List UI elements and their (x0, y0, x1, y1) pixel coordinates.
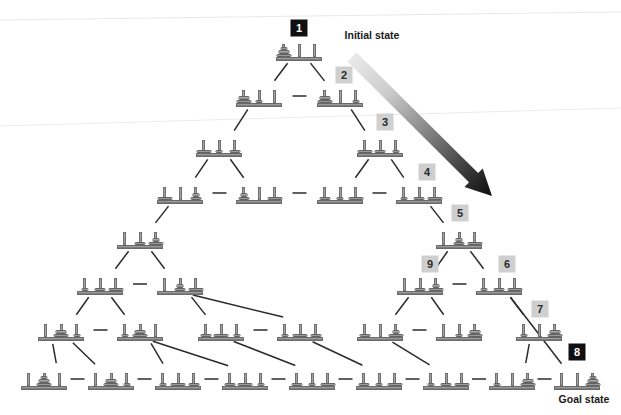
disc-size-2 (415, 288, 426, 291)
board-base (155, 386, 201, 390)
disc-size-2 (375, 150, 386, 153)
peg-1 (163, 278, 166, 291)
board-base (276, 57, 322, 61)
hanoi-board (155, 368, 201, 390)
hanoi-state-node (222, 368, 268, 390)
peg-2 (538, 324, 541, 337)
hanoi-state-node (77, 273, 123, 295)
edge-n14-n21 (431, 297, 443, 314)
disc-size-2 (135, 242, 146, 245)
peg-2 (258, 187, 261, 200)
hanoi-board (196, 135, 242, 157)
disc-size-3 (428, 288, 443, 291)
hanoi-board (236, 85, 282, 107)
hanoi-state-node (155, 368, 201, 390)
peg-3 (273, 90, 276, 103)
edge-n12-n16 (76, 297, 88, 314)
hanoi-state-node (38, 319, 84, 341)
disc-size-2 (319, 197, 330, 200)
hanoi-state-node (198, 319, 244, 341)
edge-n13-n19 (193, 295, 283, 317)
board-base (476, 291, 522, 295)
disc-size-1 (400, 197, 407, 200)
edge-n5-n9 (391, 159, 404, 177)
edge-n1-n3 (310, 63, 324, 81)
step-tag-5: 5 (452, 205, 469, 222)
edge-n6-n10 (155, 206, 168, 223)
disc-size-1 (337, 197, 344, 200)
disc-size-1 (121, 334, 128, 337)
disc-size-1 (73, 334, 80, 337)
peg-3 (313, 44, 316, 57)
disc-size-2 (200, 334, 211, 337)
board-base (117, 245, 163, 249)
disc-size-2 (549, 330, 560, 333)
disc-size-2 (358, 383, 369, 386)
board-base (489, 386, 535, 390)
board-base (317, 103, 363, 107)
disc-size-1 (177, 284, 184, 287)
disc-size-2 (224, 383, 235, 386)
disc-size-2 (522, 379, 533, 382)
hanoi-board (21, 368, 67, 390)
hanoi-state-node (196, 135, 242, 157)
hanoi-state-node (277, 319, 323, 341)
disc-size-3 (133, 334, 148, 337)
step-tag-9: 9 (422, 256, 439, 273)
hanoi-state-node (117, 319, 163, 341)
hanoi-state-node (476, 273, 522, 295)
disc-size-3 (520, 383, 535, 386)
disc-size-1 (159, 383, 166, 386)
disc-size-3 (214, 334, 229, 337)
step-tag-1: 1 (291, 20, 308, 37)
disc-size-3 (357, 150, 372, 153)
board-base (423, 386, 469, 390)
disc-size-3 (547, 334, 562, 337)
hanoi-board (489, 368, 535, 390)
peg-3 (58, 373, 61, 386)
disc-size-3 (54, 334, 69, 337)
board-base (289, 386, 335, 390)
disc-size-2 (238, 96, 249, 99)
disc-size-2 (469, 330, 480, 333)
disc-size-3 (276, 54, 291, 57)
board-base (157, 200, 203, 204)
disc-size-2 (188, 383, 199, 386)
disc-size-2 (494, 288, 505, 291)
disc-size-2 (229, 150, 240, 153)
edge-n10-n12 (115, 251, 128, 269)
edge-n4-n6 (195, 159, 208, 177)
edge-n17-n25 (151, 343, 163, 363)
disc-size-1 (281, 334, 288, 337)
board-base (196, 153, 242, 157)
peg-1 (27, 373, 30, 386)
peg-2 (379, 324, 382, 337)
disc-size-2 (319, 96, 330, 99)
step-tag-8: 8 (569, 344, 586, 361)
hanoi-board (423, 368, 469, 390)
hanoi-state-node (356, 368, 402, 390)
disc-size-2 (454, 242, 465, 245)
board-base (357, 153, 403, 157)
hanoi-state-node (423, 368, 469, 390)
hanoi-state-node (289, 368, 335, 390)
board-base (317, 200, 363, 204)
hanoi-state-node (357, 135, 403, 157)
hanoi-board (222, 368, 268, 390)
hanoi-board (436, 319, 482, 341)
board-base (397, 291, 443, 295)
board-base (516, 337, 562, 341)
disc-size-1 (123, 383, 130, 386)
hanoi-state-node (489, 368, 535, 390)
disc-size-2 (190, 197, 201, 200)
edge-n17-n26 (153, 341, 228, 366)
disc-size-2 (135, 330, 146, 333)
board-base (38, 337, 84, 341)
disc-size-1 (589, 376, 596, 379)
disc-size-1 (352, 100, 359, 103)
edge-n4-n7 (230, 159, 243, 178)
hanoi-board (198, 319, 244, 341)
hanoi-board (276, 39, 322, 61)
disc-size-2 (291, 383, 302, 386)
board-base (77, 291, 123, 295)
